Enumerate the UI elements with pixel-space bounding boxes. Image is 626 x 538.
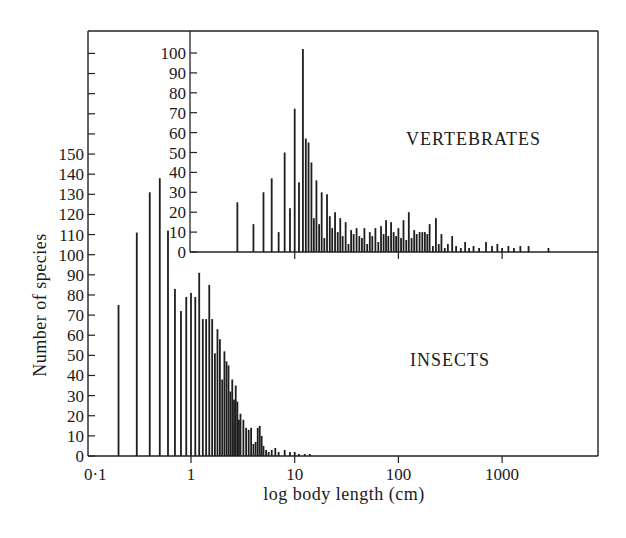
insect-bar — [185, 297, 187, 456]
insect-bar — [253, 444, 255, 456]
y-tick-label: 30 — [169, 183, 186, 202]
vertebrate-bar — [413, 230, 415, 252]
y-tick-label: 20 — [169, 203, 186, 222]
vertebrate-bar — [468, 248, 470, 252]
y-tick-label: 40 — [169, 163, 186, 182]
vertebrate-bar — [363, 228, 365, 252]
vertebrate-bar — [318, 224, 320, 252]
x-tick-label: 100 — [386, 465, 412, 484]
vertebrate-bar — [298, 182, 300, 252]
vertebrate-bar — [455, 246, 457, 252]
insects-upper-y-ticks — [88, 53, 95, 134]
vertebrate-bar — [447, 244, 449, 252]
vertebrates-y-ticks: 0102030405060708090100 — [161, 44, 198, 262]
vertebrate-bar — [491, 246, 493, 252]
y-tick-label: 120 — [59, 205, 85, 224]
y-tick-label: 70 — [67, 306, 84, 325]
vertebrate-bar — [390, 222, 392, 252]
vertebrates-bars — [236, 49, 549, 252]
insect-bar — [261, 436, 263, 456]
vertebrate-bar — [361, 238, 363, 252]
insect-bar — [230, 392, 232, 456]
insect-bar — [236, 402, 238, 456]
insect-bar — [309, 454, 311, 456]
insect-bar — [289, 452, 291, 456]
vertebrate-bar — [337, 232, 339, 252]
y-tick-label: 30 — [67, 387, 84, 406]
insect-bar — [255, 442, 257, 456]
x-tick-label: 10 — [286, 465, 303, 484]
vertebrate-bar — [513, 248, 515, 252]
y-tick-label: 80 — [67, 286, 84, 305]
vertebrate-bar — [408, 212, 410, 252]
insect-bar — [231, 380, 233, 456]
vertebrate-bar — [271, 178, 273, 252]
vertebrate-bar — [302, 49, 304, 252]
vertebrate-bar — [374, 228, 376, 252]
insect-bar — [240, 414, 242, 456]
insect-bar — [221, 380, 223, 456]
vertebrate-bar — [326, 194, 328, 252]
vertebrate-bar — [311, 162, 313, 252]
insect-bar — [174, 289, 176, 456]
vertebrate-bar — [519, 246, 521, 252]
insect-bar — [271, 450, 273, 456]
vertebrates-x-ticks — [295, 252, 502, 259]
insects-bars — [118, 178, 311, 456]
y-tick-label: 90 — [169, 64, 186, 83]
vertebrate-bar — [464, 242, 466, 252]
insect-bar — [118, 305, 120, 456]
insect-bar — [180, 311, 182, 456]
insect-bar — [248, 430, 250, 456]
vertebrate-bar — [435, 218, 437, 252]
insect-bar — [233, 400, 235, 456]
vertebrate-bar — [419, 232, 421, 252]
vertebrate-bar — [321, 192, 323, 252]
vertebrate-bar — [305, 139, 307, 252]
insect-bar — [208, 285, 210, 456]
y-tick-label: 130 — [59, 185, 85, 204]
vertebrate-bar — [421, 232, 423, 252]
y-tick-label: 0 — [76, 447, 85, 466]
insect-bar — [284, 450, 286, 456]
y-tick-label: 10 — [67, 427, 84, 446]
vertebrate-bar — [339, 218, 341, 252]
x-tick-label: 1 — [187, 465, 196, 484]
insect-bar — [198, 273, 200, 456]
vertebrate-bar — [289, 208, 291, 252]
insect-bar — [136, 233, 138, 456]
vertebrate-bar — [323, 238, 325, 252]
vertebrate-bar — [329, 216, 331, 252]
insect-bar — [219, 339, 221, 456]
insect-bar — [242, 420, 244, 456]
vertebrate-bar — [393, 232, 395, 252]
insect-bar — [194, 297, 196, 456]
vertebrate-bar — [385, 220, 387, 252]
vertebrate-bar — [501, 248, 503, 252]
vertebrate-bar — [444, 248, 446, 252]
insect-bar — [211, 319, 213, 456]
vertebrate-bar — [485, 242, 487, 252]
vertebrate-bar — [358, 236, 360, 252]
vertebrate-bar — [548, 248, 550, 252]
vertebrate-bar — [478, 248, 480, 252]
vertebrate-bar — [429, 224, 431, 252]
vertebrate-bar — [313, 218, 315, 252]
vertebrate-bar — [377, 242, 379, 252]
vertebrate-bar — [441, 234, 443, 252]
vertebrate-bar — [416, 234, 418, 252]
vertebrate-bar — [460, 248, 462, 252]
insects-x-ticks: 0·11101001000 — [84, 456, 519, 484]
insect-bar — [235, 386, 237, 456]
insect-bar — [245, 428, 247, 456]
vertebrate-bar — [369, 232, 371, 252]
x-axis-title: log body length (cm) — [263, 484, 424, 505]
insect-bar — [298, 454, 300, 456]
insect-bar — [224, 351, 226, 456]
vertebrate-bar — [356, 228, 358, 252]
insect-bar — [226, 361, 228, 456]
vertebrate-bar — [426, 234, 428, 252]
insect-bar — [167, 231, 169, 456]
insect-bar — [263, 446, 265, 456]
insect-bar — [278, 452, 280, 456]
